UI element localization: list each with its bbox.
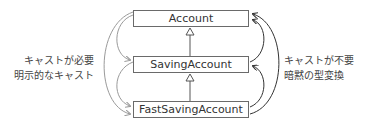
explicit-cast-label-line2: 明示的なキャスト <box>14 68 94 83</box>
implicit-cast-label-line1: キャストが不要 <box>284 53 354 68</box>
implicit-cast-label: キャストが不要 暗黙の型変換 <box>284 53 354 83</box>
class-box-saving-account: SavingAccount <box>133 56 249 73</box>
explicit-cast-label: キャストが必要 明示的なキャスト <box>14 53 94 83</box>
class-box-account: Account <box>133 10 249 27</box>
inheritance-arrow-fast-to-saving <box>186 74 194 101</box>
inheritance-arrow-saving-to-account <box>186 28 194 56</box>
class-box-fast-saving-account: FastSavingAccount <box>133 101 249 118</box>
class-name: FastSavingAccount <box>139 103 243 116</box>
class-name: Account <box>169 12 213 25</box>
implicit-cast-label-line2: 暗黙の型変換 <box>284 68 354 83</box>
explicit-cast-label-line1: キャストが必要 <box>14 53 94 68</box>
class-name: SavingAccount <box>150 58 232 71</box>
implicit-cast-arrows <box>250 14 279 114</box>
explicit-cast-arrows <box>104 12 133 114</box>
